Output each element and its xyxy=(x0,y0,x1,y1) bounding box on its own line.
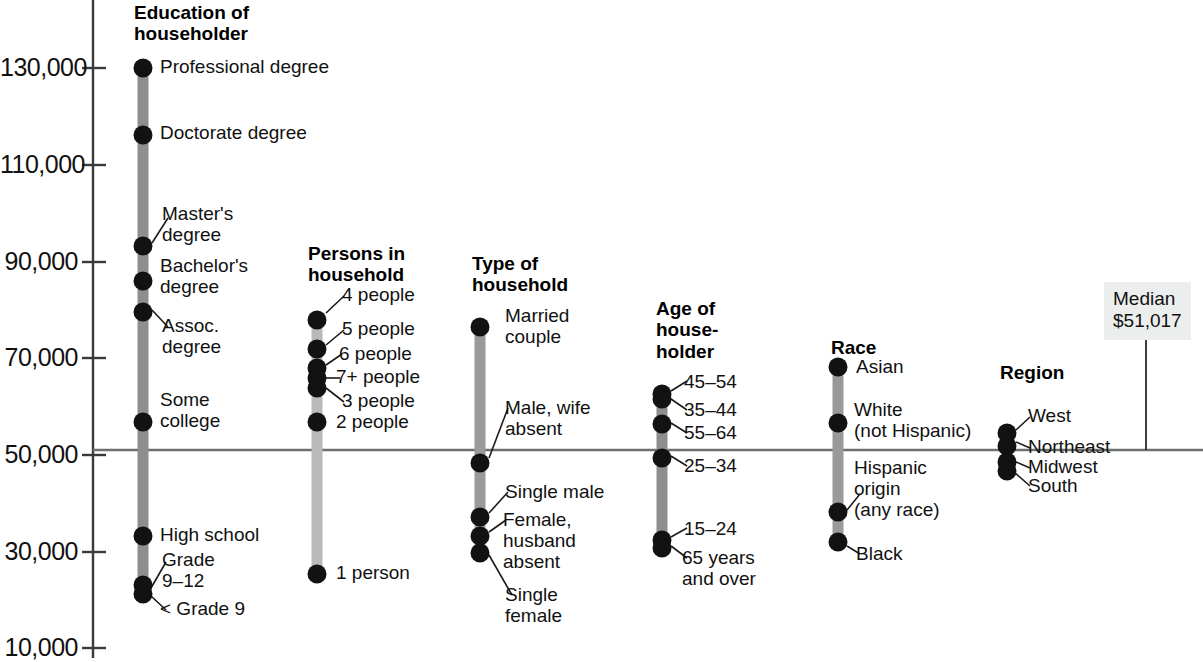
data-point xyxy=(471,318,490,337)
point-label-male-wife-absent: Male, wife absent xyxy=(505,398,591,440)
point-label-4-people: 4 people xyxy=(342,285,415,306)
point-label-bachelors-degree: Bachelor's degree xyxy=(160,256,248,298)
group-title-region: Region xyxy=(1000,362,1064,383)
data-point xyxy=(653,449,672,468)
point-label-3-people: 3 people xyxy=(342,391,415,412)
point-label-asian: Asian xyxy=(856,357,904,378)
point-label-married-couple: Married couple xyxy=(505,306,569,348)
group-title-age: Age of house- holder xyxy=(656,298,718,362)
data-point xyxy=(134,527,153,546)
data-point xyxy=(471,508,490,527)
data-point xyxy=(134,237,153,256)
point-label-6-people: 6 people xyxy=(339,344,412,365)
data-point xyxy=(134,272,153,291)
point-label-15-24: 15–24 xyxy=(684,519,737,540)
data-point xyxy=(308,340,327,359)
point-label-west: West xyxy=(1028,406,1071,427)
y-tick-label-130000: 130,000 xyxy=(0,53,78,82)
data-point xyxy=(471,454,490,473)
data-point xyxy=(829,414,848,433)
point-label-single-female: Single female xyxy=(505,585,562,627)
point-label-55-64: 55–64 xyxy=(684,423,737,444)
point-label-professional-degree: Professional degree xyxy=(160,57,329,78)
y-tick-label-30000: 30,000 xyxy=(0,537,78,566)
point-label-25-34: 25–34 xyxy=(684,456,737,477)
data-point xyxy=(134,413,153,432)
point-label-35-44: 35–44 xyxy=(684,400,737,421)
point-label-northeast: Northeast xyxy=(1028,437,1110,458)
point-label-high-school: High school xyxy=(160,525,259,546)
data-point xyxy=(653,390,672,409)
point-label-7-plus-people: 7+ people xyxy=(336,367,420,388)
y-tick-label-90000: 90,000 xyxy=(0,247,78,276)
data-point xyxy=(829,358,848,377)
point-label-assoc-degree: Assoc. degree xyxy=(162,316,221,358)
point-label-less-than-grade-9: < Grade 9 xyxy=(160,599,245,620)
group-title-education: Education of householder xyxy=(134,2,249,45)
point-label-female-husband-absent: Female, husband absent xyxy=(503,510,576,573)
point-label-south: South xyxy=(1028,476,1078,497)
data-point xyxy=(471,544,490,563)
data-point xyxy=(134,585,153,604)
point-label-black: Black xyxy=(856,544,902,565)
point-label-45-54: 45–54 xyxy=(684,372,737,393)
point-label-1-person: 1 person xyxy=(336,563,410,584)
data-point xyxy=(134,303,153,322)
data-point xyxy=(829,533,848,552)
point-label-2-people: 2 people xyxy=(336,412,409,433)
group-title-persons: Persons in household xyxy=(308,243,405,286)
point-label-masters-degree: Master's degree xyxy=(162,204,233,246)
y-tick-label-110000: 110,000 xyxy=(0,150,78,179)
data-point xyxy=(308,565,327,584)
data-point xyxy=(471,527,490,546)
median-callout-box: Median $51,017 xyxy=(1104,282,1191,340)
y-tick-label-10000: 10,000 xyxy=(0,633,78,662)
point-label-hispanic-origin: Hispanic origin (any race) xyxy=(854,458,940,521)
data-point xyxy=(653,415,672,434)
point-label-5-people: 5 people xyxy=(342,319,415,340)
point-label-some-college: Some college xyxy=(160,390,220,432)
y-tick-label-70000: 70,000 xyxy=(0,343,78,372)
point-label-65-and-over: 65 years and over xyxy=(682,548,756,590)
data-point xyxy=(653,539,672,558)
y-tick-label-50000: 50,000 xyxy=(0,440,78,469)
group-title-household-type: Type of household xyxy=(472,253,568,296)
data-point xyxy=(998,462,1017,481)
dot-chart: 130,000 110,000 90,000 70,000 50,000 30,… xyxy=(0,0,1203,662)
data-point xyxy=(308,379,327,398)
data-point xyxy=(829,503,848,522)
point-label-doctorate-degree: Doctorate degree xyxy=(160,123,307,144)
data-point xyxy=(134,59,153,78)
data-point xyxy=(308,311,327,330)
point-label-single-male: Single male xyxy=(505,482,604,503)
point-label-white-not-hispanic: White (not Hispanic) xyxy=(854,400,971,442)
data-point xyxy=(134,126,153,145)
point-label-grade-9-12: Grade 9–12 xyxy=(162,550,215,592)
data-point xyxy=(308,413,327,432)
